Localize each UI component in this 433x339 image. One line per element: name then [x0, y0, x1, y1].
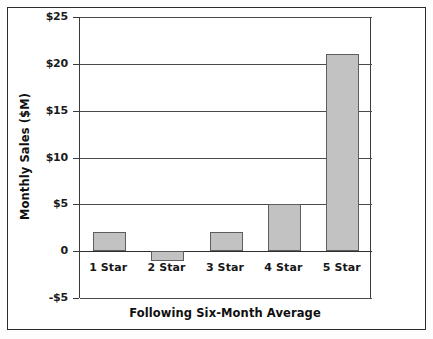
y-axis-tick-label: $20 [0, 57, 68, 70]
x-axis-category-label: 1 Star [79, 261, 137, 274]
y-axis-tick-label: 0 [0, 244, 68, 257]
gridline [80, 298, 372, 299]
y-axis-tick-mark [73, 298, 79, 299]
y-axis-tick-mark [73, 64, 79, 65]
gridline [80, 17, 372, 18]
bar [210, 232, 243, 251]
x-axis-category-label: 3 Star [196, 261, 254, 274]
gridline [80, 251, 372, 252]
plot-area [79, 17, 371, 298]
y-axis-tick-label: $15 [0, 104, 68, 117]
y-axis-tick-mark [73, 251, 79, 252]
x-axis-category-label: 5 Star [313, 261, 371, 274]
y-axis-tick-mark [73, 204, 79, 205]
y-axis-tick-mark [73, 158, 79, 159]
x-axis-category-label: 4 Star [254, 261, 312, 274]
bar [93, 232, 126, 251]
y-axis-tick-label: $5 [0, 197, 68, 210]
y-axis-title: Monthly Sales ($M) [18, 100, 32, 220]
y-axis-tick-mark [73, 111, 79, 112]
bar [151, 251, 184, 260]
y-axis-tick-mark [73, 17, 79, 18]
y-axis-tick-label: -$5 [0, 291, 68, 304]
y-axis-tick-label: $25 [0, 10, 68, 23]
x-axis-category-label: 2 Star [137, 261, 195, 274]
x-axis-title: Following Six-Month Average [79, 306, 371, 320]
bar [326, 54, 359, 251]
bar [268, 204, 301, 251]
chart-figure: $25$20$15$10$50-$5 1 Star2 Star3 Star4 S… [0, 0, 433, 339]
y-axis-tick-label: $10 [0, 151, 68, 164]
